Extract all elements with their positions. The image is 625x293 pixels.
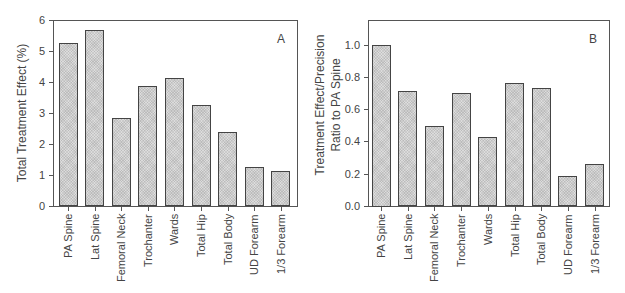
y-tick-label: 0.8 <box>330 71 360 83</box>
x-tick <box>515 207 516 211</box>
y-tick <box>364 45 369 46</box>
x-tick-label: UD Forearm <box>562 214 574 275</box>
y-tick <box>364 109 369 110</box>
x-tick <box>568 207 569 211</box>
y-tick <box>364 141 369 142</box>
x-tick-label: Wards <box>482 214 494 245</box>
bar-wards <box>478 137 497 206</box>
x-tick <box>541 207 542 211</box>
y-tick <box>364 174 369 175</box>
y-tick <box>364 77 369 78</box>
x-tick <box>488 207 489 211</box>
bar-femoral-neck <box>425 126 444 206</box>
bar-lat-spine <box>398 91 417 206</box>
y-tick <box>364 206 369 207</box>
chart-panel-b: Treatment Effect/Precision Ratio to PA S… <box>0 0 625 293</box>
panel-label-b: B <box>589 32 597 46</box>
bar-trochanter <box>452 93 471 206</box>
x-tick-label: Total Hip <box>509 214 521 257</box>
x-tick-label: Total Body <box>535 214 547 265</box>
x-tick <box>434 207 435 211</box>
y-tick-label: 0.0 <box>330 200 360 212</box>
x-tick-label: 1/3 Forearm <box>589 214 601 274</box>
y-axis-title-b-line1: Treatment Effect/Precision <box>313 25 327 185</box>
y-tick-label: 0.6 <box>330 103 360 115</box>
x-tick <box>595 207 596 211</box>
y-tick-label: 0.4 <box>330 135 360 147</box>
bar-total-body <box>532 88 551 206</box>
x-tick-label: Trochanter <box>455 214 467 267</box>
y-tick-label: 0.2 <box>330 168 360 180</box>
x-tick <box>408 207 409 211</box>
bar-total-hip <box>505 83 524 206</box>
bar-1-3-forearm <box>585 164 604 206</box>
bar-pa-spine <box>372 45 391 207</box>
x-tick-label: Lat Spine <box>402 214 414 260</box>
x-tick <box>461 207 462 211</box>
x-tick-label: PA Spine <box>375 214 387 258</box>
x-tick <box>381 207 382 211</box>
y-tick-label: 1.0 <box>330 39 360 51</box>
x-tick-label: Femoral Neck <box>428 214 440 282</box>
bar-ud-forearm <box>558 176 577 206</box>
